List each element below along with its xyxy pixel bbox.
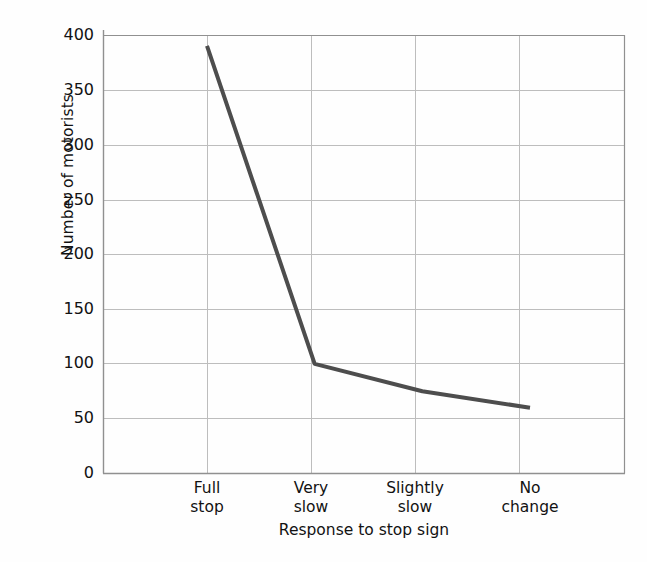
horizontal-gridlines bbox=[103, 36, 625, 419]
x-tick-slightly-slow-line1: Slightly bbox=[350, 479, 480, 498]
plot-area bbox=[0, 0, 647, 562]
x-axis-title: Response to stop sign bbox=[103, 521, 625, 539]
y-tick-400: 400 bbox=[6, 26, 94, 44]
x-tick-slightly-slow: Slightly slow bbox=[350, 479, 480, 517]
x-axis-tick-labels: Full stop Very slow Slightly slow No cha… bbox=[0, 479, 647, 523]
data-line-number-of-motorists bbox=[207, 46, 530, 408]
x-tick-no-change-line1: No bbox=[465, 479, 595, 498]
plot-frame bbox=[103, 30, 625, 474]
line-chart: 400 350 300 250 200 150 100 50 0 Number … bbox=[0, 0, 647, 562]
y-tick-50: 50 bbox=[6, 409, 94, 427]
x-tick-no-change-line2: change bbox=[465, 498, 595, 517]
x-tick-slightly-slow-line2: slow bbox=[350, 498, 480, 517]
x-tick-no-change: No change bbox=[465, 479, 595, 517]
y-tick-100: 100 bbox=[6, 354, 94, 372]
y-axis-title: Number of motorists bbox=[55, 45, 81, 305]
